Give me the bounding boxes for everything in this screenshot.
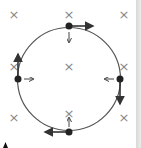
cross-icon: ×	[119, 7, 130, 22]
cross-icon: ×	[64, 59, 75, 74]
particle-dot-right	[117, 76, 124, 83]
particle-dot-left	[15, 76, 22, 83]
cross-icon: ×	[9, 7, 20, 22]
cross-icon: ×	[119, 110, 130, 125]
right-edge-strip	[136, 0, 141, 148]
cross-icon: ×	[9, 110, 20, 125]
particle-dot-bottom	[66, 129, 73, 136]
particle-dot-top	[66, 23, 73, 30]
cross-icon: ×	[64, 7, 75, 22]
corner-triangle-icon	[3, 142, 8, 148]
magnetic-field-diagram: × × × × × × × × ×	[0, 0, 141, 148]
diagram-canvas: × × × × × × × × ×	[0, 0, 141, 148]
